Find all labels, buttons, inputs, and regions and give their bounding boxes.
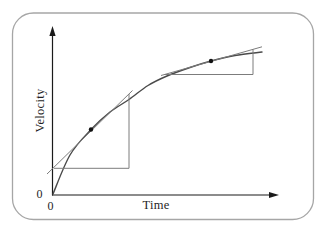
x-axis-label: Time <box>142 198 169 212</box>
tangent-point-2 <box>209 59 213 63</box>
origin-label-y: 0 <box>37 187 43 201</box>
rounded-panel-border <box>13 13 314 220</box>
velocity-time-chart: Velocity Time 0 0 <box>0 0 327 227</box>
y-axis-label: Velocity <box>33 88 47 133</box>
figure-panel: Velocity Time 0 0 <box>0 0 327 227</box>
tangent-point-1 <box>89 127 93 131</box>
origin-label-x: 0 <box>48 199 54 213</box>
